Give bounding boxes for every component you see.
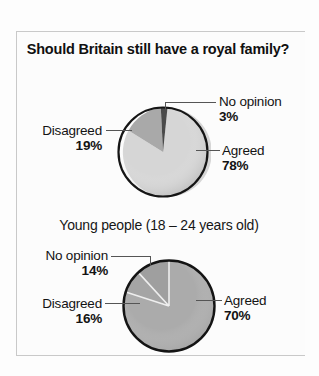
callout-value: 70% bbox=[224, 308, 266, 323]
leader-line-no-opinion-2-stem bbox=[150, 256, 151, 266]
callout-label: Agreed bbox=[224, 293, 266, 308]
callout-value: 78% bbox=[222, 158, 264, 173]
leader-line-no-opinion-1-stem bbox=[165, 102, 166, 110]
leader-line-disagreed-2 bbox=[105, 303, 140, 304]
pie-chart-1-svg bbox=[115, 104, 211, 200]
callout-agreed-chart1: Agreed 78% bbox=[222, 143, 264, 173]
callout-value: 16% bbox=[16, 311, 102, 326]
callout-no-opinion-chart2: No opinion 14% bbox=[10, 248, 108, 278]
leader-line-disagreed-1 bbox=[106, 130, 132, 131]
callout-label: No opinion bbox=[10, 248, 108, 263]
callout-agreed-chart2: Agreed 70% bbox=[224, 293, 266, 323]
callout-label: Disagreed bbox=[16, 296, 102, 311]
callout-label: No opinion bbox=[219, 94, 282, 109]
callout-value: 3% bbox=[219, 109, 282, 124]
callout-value: 14% bbox=[10, 263, 108, 278]
pie-chart-young-people bbox=[120, 257, 218, 355]
callout-no-opinion-chart1: No opinion 3% bbox=[219, 94, 282, 124]
leader-line-agreed-1 bbox=[196, 150, 220, 151]
callout-label: Disagreed bbox=[12, 123, 102, 138]
pie-chart-all-respondents bbox=[115, 104, 211, 200]
callout-label: Agreed bbox=[222, 143, 264, 158]
callout-value: 19% bbox=[12, 138, 102, 153]
callout-disagreed-chart2: Disagreed 16% bbox=[16, 296, 102, 326]
leader-line-agreed-2 bbox=[196, 300, 222, 301]
pie-chart-2-svg bbox=[120, 257, 218, 355]
leader-line-no-opinion-1 bbox=[165, 102, 216, 103]
leader-line-no-opinion-2 bbox=[111, 256, 151, 257]
infographic-page: Should Britain still have a royal family… bbox=[0, 0, 319, 376]
page-title: Should Britain still have a royal family… bbox=[22, 41, 294, 58]
callout-disagreed-chart1: Disagreed 19% bbox=[12, 123, 102, 153]
chart-subtitle: Young people (18 – 24 years old) bbox=[20, 217, 298, 233]
